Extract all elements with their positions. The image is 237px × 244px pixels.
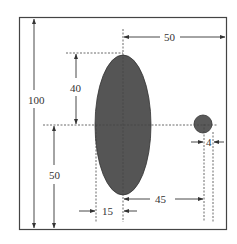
- small-circle: [194, 115, 212, 133]
- label-right-edge: 50: [164, 31, 176, 43]
- label-total-height: 100: [28, 94, 45, 106]
- label-circle-offset: 45: [155, 193, 167, 205]
- label-half-width: 15: [102, 205, 114, 217]
- diagram-canvas: 100 50 40 50 45 15 4: [0, 0, 237, 244]
- label-circle-diameter: 4: [206, 136, 212, 148]
- label-center-height: 50: [49, 169, 61, 181]
- label-ellipse-top: 40: [70, 82, 82, 94]
